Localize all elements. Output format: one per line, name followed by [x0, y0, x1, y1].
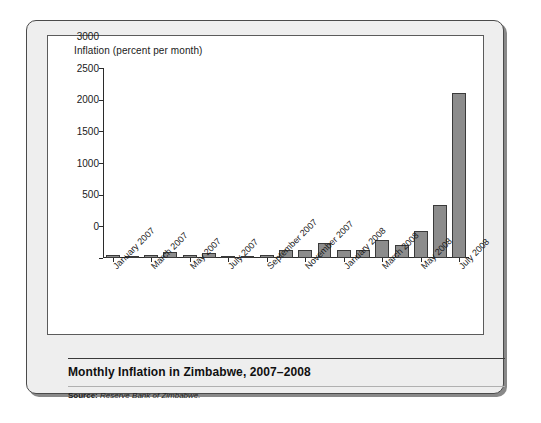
caption-divider [68, 358, 505, 359]
y-axis-tick-mark [99, 131, 103, 132]
source-text: Reserve Bank of Zimbabwe. [100, 391, 201, 400]
y-axis-tick-mark [99, 195, 103, 196]
source-line: Source: Reserve Bank of Zimbabwe. [68, 391, 201, 400]
figure-panel: Inflation (percent per month) 0500100015… [26, 20, 504, 394]
source-divider [68, 386, 505, 387]
y-axis-tick-label: 500 [82, 189, 99, 200]
y-axis-tick-mark [99, 163, 103, 164]
bar [452, 93, 466, 258]
y-axis-tick-label: 2000 [77, 94, 99, 105]
chart-title: Monthly Inflation in Zimbabwe, 2007–2008 [68, 365, 311, 379]
y-axis-tick-label: 1500 [77, 126, 99, 137]
y-axis-tick-mark [99, 100, 103, 101]
y-axis-tick-mark [99, 68, 103, 69]
y-axis-tick-label: 3000 [77, 31, 99, 42]
chart-frame: Inflation (percent per month) 0500100015… [47, 35, 484, 335]
plot-area [103, 68, 469, 258]
y-axis-tick-label: 2500 [77, 62, 99, 73]
y-axis-tick-label: 1000 [77, 157, 99, 168]
y-axis-tick-mark [99, 226, 103, 227]
y-axis-tick-mark [99, 258, 103, 259]
source-label: Source: [68, 391, 98, 400]
y-axis-tick-labels: 050010001500200025003000 [58, 36, 99, 334]
